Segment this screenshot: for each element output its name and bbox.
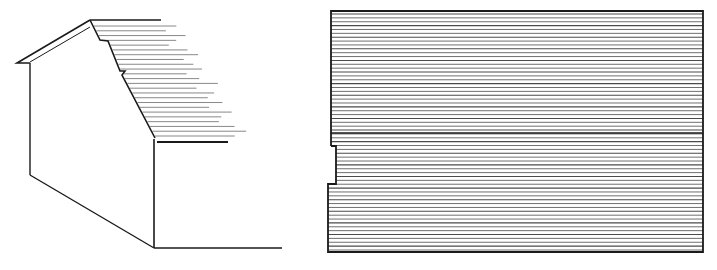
bottom-diagonal-edge [30,175,154,248]
roof-outer-edge [17,20,90,63]
panel-frame [328,11,703,252]
gable-perspective-drawing [0,0,300,270]
roof-inner-edge [30,27,90,62]
siding-elevation-drawing [300,0,717,270]
figure-left-gable-perspective [0,0,300,270]
figure-right-siding-elevation [300,0,717,270]
